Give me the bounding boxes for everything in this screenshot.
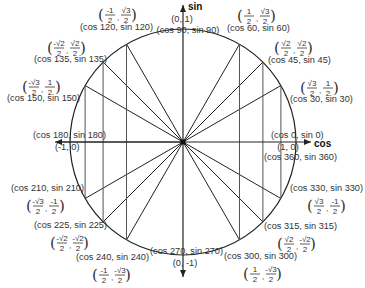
svg-text:(: ( — [92, 266, 98, 284]
svg-text:(: ( — [98, 6, 104, 24]
fraction-300: (12,-√32) — [243, 265, 282, 284]
svg-text:,: , — [319, 86, 321, 95]
radius-45 — [183, 62, 263, 142]
svg-text:): ) — [333, 79, 339, 97]
label-315: (cos 315, sin 315) — [264, 221, 337, 231]
fraction-225: (-√22,-√22) — [50, 234, 89, 253]
svg-text:-1: -1 — [331, 197, 339, 206]
svg-text:√3: √3 — [308, 79, 317, 88]
svg-text:): ) — [80, 39, 86, 57]
svg-text:): ) — [310, 235, 316, 253]
svg-text:1: 1 — [48, 78, 53, 87]
svg-text:2: 2 — [73, 49, 78, 58]
svg-text:,: , — [69, 241, 71, 250]
svg-text:√2: √2 — [285, 235, 294, 244]
label-240: (cos 240, sin 240) — [76, 252, 149, 262]
svg-text:2: 2 — [317, 207, 322, 216]
fraction-330: (√32,-12) — [307, 197, 346, 216]
svg-text:): ) — [270, 7, 276, 25]
svg-text:-1: -1 — [106, 6, 114, 15]
label-225: (cos 225, sin 225) — [34, 220, 107, 230]
svg-text:,: , — [326, 204, 328, 213]
label-90: (cos 90, sin 90) — [157, 25, 220, 35]
svg-text:): ) — [131, 6, 137, 24]
svg-text:-√2: -√2 — [56, 234, 68, 243]
radius-135 — [103, 62, 183, 142]
svg-text:2: 2 — [269, 275, 274, 284]
svg-text:2: 2 — [300, 49, 305, 58]
svg-text:2: 2 — [124, 16, 129, 25]
label-300: (cos 300, sin 300) — [224, 251, 297, 261]
label-180: (cos 180, sin 180) — [33, 130, 106, 140]
svg-text:): ) — [83, 234, 89, 252]
svg-text:,: , — [262, 272, 264, 281]
origin-dot — [181, 140, 186, 145]
svg-text:,: , — [296, 242, 298, 251]
svg-text:,: , — [256, 14, 258, 23]
svg-text:): ) — [59, 197, 65, 215]
svg-text:,: , — [111, 273, 113, 282]
coord-180: (-1, 0) — [55, 142, 80, 152]
svg-text:2: 2 — [48, 88, 53, 97]
svg-text:-√3: -√3 — [28, 78, 40, 87]
svg-text:(: ( — [26, 197, 32, 215]
svg-text:2: 2 — [303, 245, 308, 254]
svg-text:2: 2 — [36, 207, 41, 216]
label-150: (cos 150, sin 150) — [7, 93, 80, 103]
sin-axis-label: sin — [188, 1, 202, 12]
svg-text:2: 2 — [263, 17, 268, 26]
coord-270: (0, -1) — [173, 258, 198, 268]
radius-120 — [127, 44, 184, 142]
svg-text:(: ( — [22, 78, 28, 96]
svg-text:,: , — [66, 46, 68, 55]
svg-text:2: 2 — [108, 16, 113, 25]
svg-text:1: 1 — [253, 265, 258, 274]
svg-text:): ) — [276, 265, 282, 283]
unit-circle-svg: sin cos (cos 90, sin 90) (0, 1) (cos 180… — [0, 0, 365, 288]
svg-text:-√2: -√2 — [53, 39, 65, 48]
label-330: (cos 330, sin 330) — [290, 183, 363, 193]
svg-text:(: ( — [300, 79, 306, 97]
radius-225 — [103, 142, 183, 222]
svg-text:2: 2 — [333, 207, 338, 216]
svg-text:2: 2 — [247, 17, 252, 26]
fraction-240: (-12,-√32) — [92, 266, 131, 285]
svg-text:,: , — [41, 85, 43, 94]
svg-text:√3: √3 — [122, 6, 131, 15]
label-270: (cos 270, sin 270) — [150, 246, 223, 256]
svg-text:√2: √2 — [282, 39, 291, 48]
svg-text:2: 2 — [57, 49, 62, 58]
label-0: (cos 0, sin 0) — [271, 130, 324, 140]
svg-text:(: ( — [243, 265, 249, 283]
coord-0: (1, 0) — [277, 142, 298, 152]
svg-text:√3: √3 — [261, 7, 270, 16]
svg-text:2: 2 — [118, 276, 123, 285]
radius-210 — [85, 142, 183, 199]
svg-text:): ) — [125, 266, 131, 284]
fraction-210: (-√32,-12) — [26, 197, 65, 216]
label-120: (cos 120, sin 120) — [80, 22, 153, 32]
svg-text:): ) — [55, 78, 61, 96]
svg-text:2: 2 — [253, 275, 258, 284]
svg-text:1: 1 — [326, 79, 331, 88]
svg-text:,: , — [293, 46, 295, 55]
svg-text:√2: √2 — [71, 39, 80, 48]
svg-text:√3: √3 — [315, 197, 324, 206]
radius-315 — [183, 142, 263, 222]
svg-text:1: 1 — [247, 7, 252, 16]
svg-text:,: , — [45, 204, 47, 213]
radius-30 — [183, 86, 281, 143]
label-360: (cos 360, sin 360) — [264, 152, 337, 162]
radius-240 — [127, 142, 184, 240]
svg-text:2: 2 — [52, 207, 57, 216]
svg-text:2: 2 — [32, 88, 37, 97]
svg-text:,: , — [117, 13, 119, 22]
unit-circle-diagram: sin cos (cos 90, sin 90) (0, 1) (cos 180… — [0, 0, 365, 288]
label-135: (cos 135, sin 135) — [34, 54, 107, 64]
coord-90: (0, 1) — [171, 14, 192, 24]
svg-text:2: 2 — [102, 276, 107, 285]
svg-text:(: ( — [307, 197, 313, 215]
svg-text:2: 2 — [310, 89, 315, 98]
svg-text:-1: -1 — [100, 266, 108, 275]
svg-text:-√3: -√3 — [32, 197, 44, 206]
